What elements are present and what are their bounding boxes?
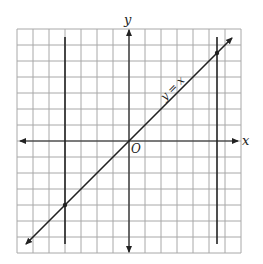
x-axis-label: x — [242, 133, 250, 148]
intersection-point — [215, 51, 219, 55]
line-label: y = x — [157, 73, 188, 104]
origin-label: O — [131, 142, 141, 156]
intersection-point — [63, 203, 67, 207]
y-axis-label: y — [123, 12, 132, 27]
line-y-equals-x — [26, 141, 129, 244]
coordinate-plane: x y O y = x — [0, 0, 263, 264]
